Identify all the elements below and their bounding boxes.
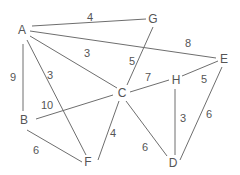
nodes-layer: AGEHCBFD [18,12,228,170]
node-b: B [20,113,28,127]
node-a: A [18,23,26,37]
edge-weight-a-g: 4 [87,11,93,23]
edge-weight-c-f: 4 [110,127,116,139]
edge-weight-c-d: 6 [142,141,148,153]
edge-weight-a-f: 3 [47,69,53,81]
edge-weight-a-c: 3 [84,47,90,59]
weighted-graph: 483395753610646 AGEHCBFD [0,0,240,175]
edge-a-f [27,40,86,155]
edge-weight-a-b: 9 [10,71,16,83]
edge-a-c [30,36,117,88]
node-c: C [118,86,127,100]
edge-weight-a-e: 8 [185,37,191,49]
edge-weight-h-e: 5 [201,73,207,85]
node-h: H [172,73,181,87]
edge-weight-h-d: 3 [180,112,186,124]
node-g: G [148,12,157,26]
edge-weight-b-f: 6 [33,144,39,156]
edge-weight-g-c: 5 [129,55,135,67]
edge-weight-b-c: 10 [41,99,53,111]
node-d: D [169,156,178,170]
node-f: F [84,155,91,169]
node-e: E [220,52,228,66]
edge-weight-c-h: 7 [145,71,151,83]
edge-weight-e-d: 6 [206,108,212,120]
